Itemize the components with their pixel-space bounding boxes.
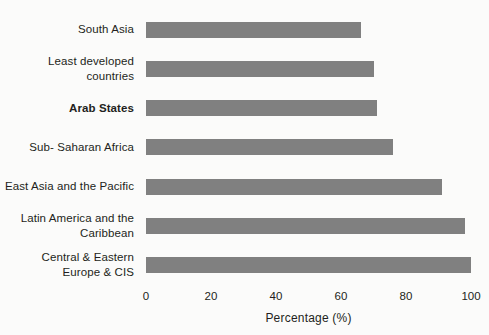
category-label: Sub- Saharan Africa <box>29 140 140 155</box>
category-label-row: Least developed countries <box>0 49 140 88</box>
bar-rows <box>146 10 471 285</box>
category-label: Least developed countries <box>0 54 140 84</box>
bar <box>146 257 471 273</box>
bar-chart: South AsiaLeast developed countriesArab … <box>0 0 489 335</box>
category-label: South Asia <box>78 22 140 37</box>
bar <box>146 100 377 116</box>
category-label: Central & Eastern Europe & CIS <box>42 250 140 280</box>
bar-row <box>146 10 471 49</box>
x-tick-label: 60 <box>335 290 348 302</box>
category-label-row: Central & Eastern Europe & CIS <box>0 246 140 285</box>
category-label-row: Sub- Saharan Africa <box>0 128 140 167</box>
category-label-row: Latin America and the Caribbean <box>0 206 140 245</box>
category-label: Latin America and the Caribbean <box>21 211 140 241</box>
plot-area <box>146 10 471 285</box>
bar <box>146 139 393 155</box>
category-label-row: East Asia and the Pacific <box>0 167 140 206</box>
bar <box>146 179 442 195</box>
x-tick-label: 40 <box>270 290 283 302</box>
bar-row <box>146 167 471 206</box>
category-label: East Asia and the Pacific <box>5 179 140 194</box>
bar-row <box>146 49 471 88</box>
x-tick-label: 20 <box>205 290 218 302</box>
bar-row <box>146 89 471 128</box>
bar-row <box>146 128 471 167</box>
x-tick-label: 0 <box>143 290 149 302</box>
category-label-row: South Asia <box>0 10 140 49</box>
category-axis-labels: South AsiaLeast developed countriesArab … <box>0 10 140 285</box>
category-label: Arab States <box>69 101 140 116</box>
x-tick-label: 80 <box>400 290 413 302</box>
bar <box>146 22 361 38</box>
bar-row <box>146 246 471 285</box>
x-axis-title: Percentage (%) <box>146 311 471 325</box>
x-axis-ticks: 020406080100 <box>146 286 471 308</box>
bar <box>146 218 465 234</box>
x-tick-label: 100 <box>461 290 480 302</box>
bar-row <box>146 206 471 245</box>
category-label-row: Arab States <box>0 89 140 128</box>
bar <box>146 61 374 77</box>
